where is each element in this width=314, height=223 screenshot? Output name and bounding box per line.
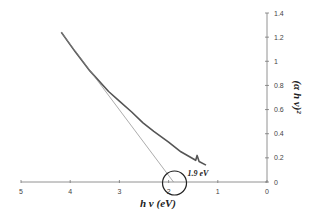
x-axis-title: h v (eV) (140, 197, 176, 210)
y-axis: 00.20.40.60.811.21.4 (265, 10, 284, 186)
x-tick-label: 0 (265, 188, 269, 195)
bandgap-circle-marker (163, 171, 187, 195)
x-axis: 543210 (19, 180, 269, 195)
y-tick-label: 0.6 (274, 106, 284, 113)
x-tick-label: 5 (19, 188, 23, 195)
bandgap-annotation-label: 1.9 eV (188, 169, 210, 178)
data-series-line (61, 32, 206, 165)
y-tick-label: 1.4 (274, 10, 284, 17)
y-tick-label: 1 (274, 58, 278, 65)
x-tick-label: 3 (117, 188, 121, 195)
series-layer (61, 32, 206, 182)
y-tick-label: 0 (274, 179, 278, 186)
y-axis-title: (α h v)² (291, 80, 304, 114)
y-tick-label: 0.2 (274, 154, 284, 161)
extrapolation-line (61, 32, 173, 182)
y-tick-label: 0.8 (274, 82, 284, 89)
y-tick-label: 0.4 (274, 130, 284, 137)
tauc-plot-chart: 543210 00.20.40.60.811.21.4 1.9 eV h v (… (0, 0, 314, 223)
y-tick-label: 1.2 (274, 34, 284, 41)
x-tick-label: 1 (216, 188, 220, 195)
x-tick-label: 4 (68, 188, 72, 195)
